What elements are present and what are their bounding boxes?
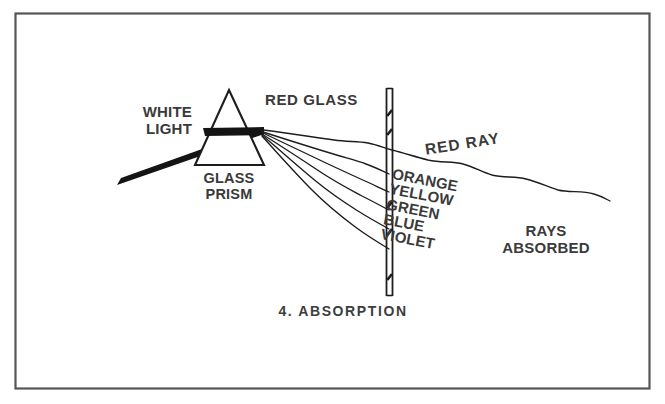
absorption-diagram-figure: WHITELIGHT GLASSPRISM RED GLASS RED RAY … xyxy=(0,0,665,404)
rays-absorbed-line-2: ABSORBED xyxy=(502,239,589,256)
label-red-glass: RED GLASS xyxy=(265,92,358,107)
glass-prism-line-1: GLASS xyxy=(204,170,255,186)
label-glass-prism: GLASSPRISM xyxy=(176,170,282,202)
label-rays-absorbed: RAYSABSORBED xyxy=(478,222,614,257)
figure-caption: 4. ABSORPTION xyxy=(243,304,443,318)
rays-absorbed-line-1: RAYS xyxy=(525,222,566,239)
label-white-light: WHITELIGHT xyxy=(96,104,192,138)
glass-prism-line-2: PRISM xyxy=(206,186,253,202)
diagram-canvas xyxy=(0,0,665,404)
white-light-line-2: LIGHT xyxy=(146,120,192,137)
white-light-line-1: WHITE xyxy=(143,103,192,120)
figure-border xyxy=(16,14,650,389)
